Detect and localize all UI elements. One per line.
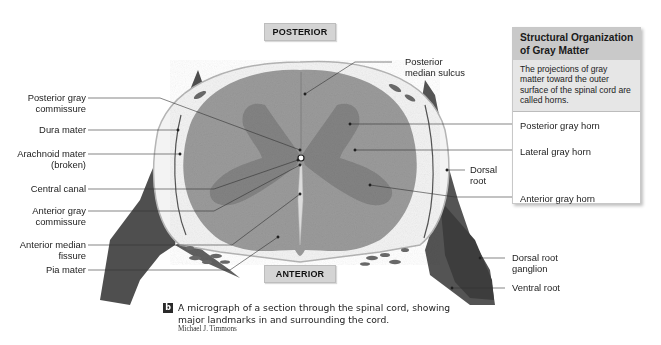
posterior-tag: POSTERIOR <box>264 23 336 41</box>
label-lateral-gray-horn: Lateral gray horn <box>520 146 591 157</box>
label-posterior-gray-commissure: Posterior gray commissure <box>28 92 86 114</box>
figure-caption: bA micrograph of a section through the s… <box>163 302 450 325</box>
figure-part-badge: b <box>163 303 173 313</box>
info-box-title: Structural Organization of Gray Matter <box>513 28 640 60</box>
label-dorsal-root-ganglion: Dorsal root ganglion <box>512 252 558 274</box>
label-pia-mater: Pia mater <box>46 264 86 275</box>
label-dorsal-root: Dorsal root <box>470 164 497 186</box>
info-box-description: The projections of gray matter toward th… <box>513 60 640 112</box>
label-arachnoid-mater: Arachnoid mater (broken) <box>17 148 86 170</box>
label-anterior-gray-commissure: Anterior gray commissure <box>32 205 86 227</box>
label-anterior-median-fissure: Anterior median fissure <box>20 239 86 261</box>
spinal-cord-figure: POSTERIOR ANTERIOR Posterior gray commis… <box>0 0 661 345</box>
label-central-canal: Central canal <box>31 183 86 194</box>
photo-credit: Michael J. Timmons <box>178 325 237 333</box>
anterior-tag: ANTERIOR <box>264 265 336 283</box>
info-box-gray-matter: Structural Organization of Gray Matter T… <box>512 27 641 204</box>
label-dura-mater: Dura mater <box>39 124 86 135</box>
label-posterior-gray-horn: Posterior gray horn <box>520 120 600 131</box>
label-anterior-gray-horn: Anterior gray horn <box>520 193 595 204</box>
label-posterior-median-sulcus: Posterior median sulcus <box>405 56 465 78</box>
label-ventral-root: Ventral root <box>512 282 560 293</box>
